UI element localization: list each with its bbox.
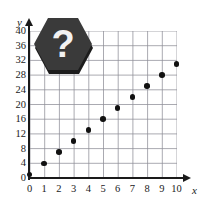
x-tick-label: 4 — [86, 184, 91, 195]
data-point — [86, 127, 92, 133]
hexagon-question-icon: ? — [33, 14, 95, 76]
svg-text:?: ? — [51, 23, 74, 65]
x-tick-label: 5 — [100, 184, 105, 195]
x-tick-label: 10 — [171, 184, 182, 195]
data-point — [56, 149, 62, 155]
x-tick-label: 2 — [56, 184, 61, 195]
x-tick-label: 1 — [42, 184, 47, 195]
hexagon-question-badge: ? — [33, 14, 95, 76]
data-point — [174, 61, 180, 67]
x-tick-label: 6 — [115, 184, 120, 195]
x-axis-ticks: 012345678910 — [0, 0, 207, 218]
x-tick-label: 7 — [130, 184, 135, 195]
data-point — [100, 116, 106, 122]
scatter-plot-figure: y x 0481216202428323640 012345678910 ? — [0, 0, 207, 218]
x-tick-label: 0 — [27, 184, 32, 195]
data-point — [159, 72, 165, 78]
x-tick-label: 8 — [144, 184, 149, 195]
x-tick-label: 9 — [159, 184, 164, 195]
data-point — [144, 83, 150, 89]
data-point — [130, 94, 136, 100]
x-tick-label: 3 — [71, 184, 76, 195]
data-point — [41, 161, 47, 167]
